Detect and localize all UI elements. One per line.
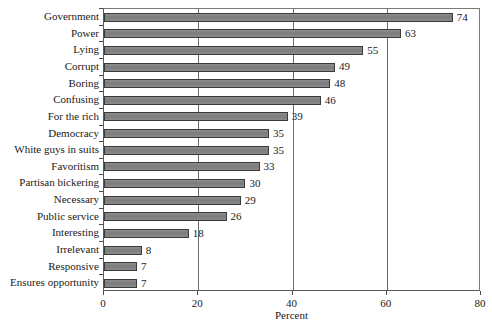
bar — [104, 29, 401, 38]
bar-value-label: 30 — [249, 175, 260, 191]
bar-value-label: 49 — [339, 58, 350, 74]
bar — [104, 46, 363, 55]
bar-row: 35 — [104, 126, 479, 143]
category-label: Irrelevant — [0, 241, 99, 258]
x-tick-0 — [103, 291, 104, 295]
bar-series: 7463554948463935353330292618877 — [104, 9, 479, 290]
bar — [104, 179, 245, 188]
bar-row: 39 — [104, 109, 479, 126]
x-tick-label: 40 — [272, 296, 312, 310]
bar-value-label: 55 — [367, 42, 378, 58]
category-label: Partisan bickering — [0, 174, 99, 191]
bar-value-label: 8 — [146, 242, 152, 258]
x-tick-label: 0 — [83, 296, 123, 310]
category-label: Power — [0, 25, 99, 42]
category-label: Ensures opportunity — [0, 274, 99, 291]
bar — [104, 63, 335, 72]
bar-row: 26 — [104, 209, 479, 226]
bar-row: 30 — [104, 175, 479, 192]
bar — [104, 212, 227, 221]
category-label: White guys in suits — [0, 141, 99, 158]
bar-row: 29 — [104, 192, 479, 209]
x-tick-60 — [386, 291, 387, 295]
category-axis: GovernmentPowerLyingCorruptBoringConfusi… — [0, 8, 99, 291]
bar-row: 8 — [104, 242, 479, 259]
bar-value-label: 39 — [292, 108, 303, 124]
bar — [104, 13, 453, 22]
bar-row: 35 — [104, 142, 479, 159]
bar-value-label: 48 — [334, 75, 345, 91]
category-label: Interesting — [0, 224, 99, 241]
bar — [104, 196, 241, 205]
category-label: Favoritism — [0, 158, 99, 175]
bar-value-label: 18 — [193, 225, 204, 241]
x-tick-40 — [292, 291, 293, 295]
bar-row: 7 — [104, 275, 479, 292]
bar-row: 33 — [104, 159, 479, 176]
x-axis-title: Percent — [0, 309, 492, 321]
bar — [104, 262, 137, 271]
bar — [104, 146, 269, 155]
bar-value-label: 74 — [457, 9, 468, 25]
bar-value-label: 35 — [273, 125, 284, 141]
x-tick-label: 20 — [177, 296, 217, 310]
bar — [104, 229, 189, 238]
bar — [104, 112, 288, 121]
x-tick-80 — [480, 291, 481, 295]
plot-area: 7463554948463935353330292618877 — [103, 8, 480, 291]
category-label: Government — [0, 8, 99, 25]
bar-value-label: 7 — [141, 275, 147, 291]
bar-value-label: 35 — [273, 142, 284, 158]
category-label: Responsive — [0, 258, 99, 275]
category-label: Lying — [0, 41, 99, 58]
category-label: Democracy — [0, 125, 99, 142]
bar-row: 18 — [104, 225, 479, 242]
bar-row: 63 — [104, 26, 479, 43]
bar-value-label: 29 — [245, 192, 256, 208]
bar — [104, 96, 321, 105]
bar-value-label: 26 — [231, 208, 242, 224]
bar-value-label: 63 — [405, 25, 416, 41]
x-tick-label: 60 — [366, 296, 406, 310]
category-label: For the rich — [0, 108, 99, 125]
bar-row: 7 — [104, 259, 479, 276]
category-label: Confusing — [0, 91, 99, 108]
bar — [104, 79, 330, 88]
category-label: Boring — [0, 75, 99, 92]
bar-row: 46 — [104, 92, 479, 109]
bar-value-label: 7 — [141, 258, 147, 274]
category-label: Public service — [0, 208, 99, 225]
bar-row: 49 — [104, 59, 479, 76]
bar-value-label: 33 — [264, 158, 275, 174]
x-axis-title-text: Percent — [275, 309, 308, 321]
x-tick-20 — [197, 291, 198, 295]
bar — [104, 162, 260, 171]
bar — [104, 279, 137, 288]
bar-value-label: 46 — [325, 92, 336, 108]
bar-row: 48 — [104, 76, 479, 93]
bar-chart: GovernmentPowerLyingCorruptBoringConfusi… — [0, 0, 492, 326]
bar-row: 74 — [104, 9, 479, 26]
x-tick-label: 80 — [460, 296, 492, 310]
bar — [104, 129, 269, 138]
bar — [104, 246, 142, 255]
category-label: Necessary — [0, 191, 99, 208]
category-label: Corrupt — [0, 58, 99, 75]
bar-row: 55 — [104, 42, 479, 59]
